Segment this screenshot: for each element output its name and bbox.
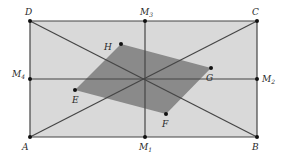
point-f [164,112,168,116]
label-h: H [103,42,112,52]
point-m3 [143,19,147,23]
label-d: D [24,7,32,17]
point-a [28,135,32,139]
label-g: G [206,73,213,83]
point-c [255,19,259,23]
label-m4: M4 [11,69,25,80]
label-e: E [71,95,79,105]
label-m3: M3 [139,7,153,18]
label-f: F [161,119,169,129]
point-m2 [255,77,259,81]
geometry-diagram: ABCDM1M2M3M4EFGH [0,0,284,158]
point-d [28,19,32,23]
point-g [209,66,213,70]
point-m1 [143,135,147,139]
label-a: A [21,142,29,152]
label-c: C [252,7,259,17]
point-m4 [28,77,32,81]
point-h [119,42,123,46]
label-m2: M2 [261,74,275,85]
label-b: B [251,142,259,152]
label-m1: M1 [138,142,152,153]
point-e [73,88,77,92]
point-b [255,135,259,139]
